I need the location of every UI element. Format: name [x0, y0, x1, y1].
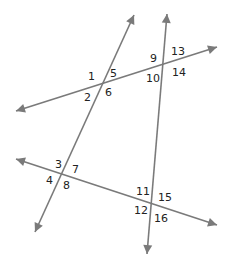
angle-label: 4	[46, 174, 53, 187]
angle-label: 15	[158, 191, 172, 204]
arrowhead-icon	[207, 218, 217, 227]
line-a	[35, 15, 134, 232]
angle-label: 6	[105, 86, 112, 99]
angle-label: 11	[136, 185, 150, 198]
line-d	[16, 159, 217, 225]
angle-label: 8	[63, 179, 70, 192]
diagram-canvas: 15269131014374811151216	[0, 0, 230, 263]
arrowhead-icon	[162, 14, 171, 23]
arrowhead-icon	[143, 245, 152, 254]
angle-label: 1	[88, 70, 95, 83]
angle-label: 10	[146, 72, 160, 85]
lines-group	[16, 14, 217, 254]
angle-label: 3	[55, 158, 62, 171]
angle-label: 16	[154, 212, 168, 225]
angle-label: 2	[84, 91, 91, 104]
angle-label: 5	[110, 67, 117, 80]
angle-label: 14	[172, 66, 186, 79]
angle-label: 13	[171, 45, 185, 58]
angle-label: 9	[150, 52, 157, 65]
angle-label: 7	[72, 163, 79, 176]
angle-labels-group: 15269131014374811151216	[46, 45, 186, 225]
angle-label: 12	[134, 204, 148, 217]
lines-diagram: 15269131014374811151216	[0, 0, 230, 263]
arrowhead-icon	[16, 158, 26, 167]
